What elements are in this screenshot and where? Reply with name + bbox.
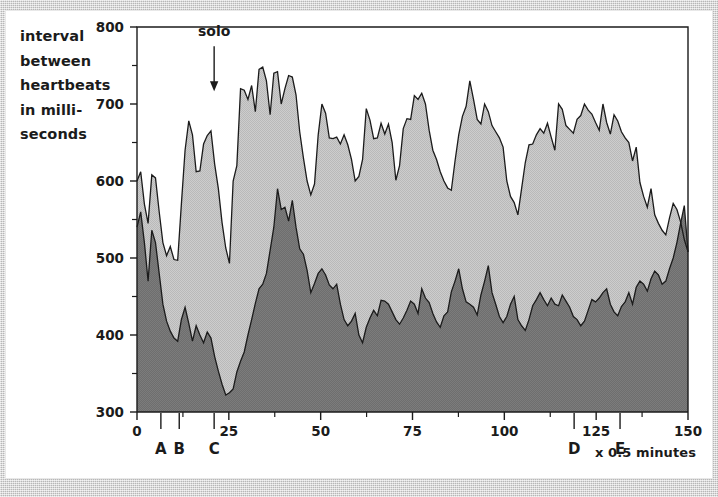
x-tick-label-150: 150: [674, 423, 702, 439]
event-marker-label-D: D: [568, 440, 580, 458]
x-tick-label-50: 50: [311, 423, 330, 439]
figure-card: interval between heartbeats in milli- se…: [6, 11, 712, 478]
x-tick-label-100: 100: [490, 423, 518, 439]
y-tick-label-500: 500: [96, 250, 124, 266]
figure-page: interval between heartbeats in milli- se…: [0, 0, 718, 497]
y-axis-ticks: 300400500600700800: [96, 19, 137, 420]
y-tick-label-800: 800: [96, 19, 124, 35]
y-tick-label-600: 600: [96, 173, 124, 189]
annotation-label-solo: solo: [198, 23, 231, 39]
data-bands: [137, 67, 688, 412]
x-axis-ticks: 0255075100125150: [132, 412, 702, 439]
x-tick-label-75: 75: [403, 423, 422, 439]
y-tick-label-300: 300: [96, 404, 124, 420]
x-tick-label-125: 125: [582, 423, 610, 439]
event-marker-label-C: C: [209, 440, 220, 458]
chart-annotations: solo: [198, 23, 231, 91]
heartbeat-interval-area-chart: 300400500600700800 0255075100125150 ABCD…: [6, 11, 712, 478]
annotation-arrow-head-solo: [210, 81, 218, 91]
y-tick-label-400: 400: [96, 327, 124, 343]
x-tick-label-25: 25: [219, 423, 238, 439]
event-marker-label-A: A: [155, 440, 167, 458]
event-marker-label-B: B: [174, 440, 185, 458]
y-tick-label-700: 700: [96, 96, 124, 112]
x-axis-unit-label: x 0.5 minutes: [595, 445, 696, 460]
x-tick-label-0: 0: [132, 423, 141, 439]
